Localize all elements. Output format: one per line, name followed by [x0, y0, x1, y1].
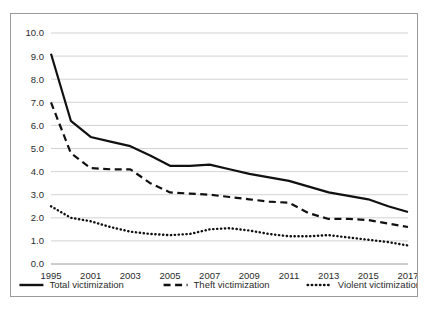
y-tick-label: 3.0: [31, 189, 44, 200]
y-tick-label: 6.0: [31, 120, 44, 131]
line-chart: 0.01.02.03.04.05.06.07.08.09.010.0 19952…: [11, 14, 417, 296]
y-tick-label: 10.0: [26, 27, 45, 38]
y-tick-label: 2.0: [31, 212, 44, 223]
legend-label: Violent victimization: [338, 279, 417, 290]
y-tick-label: 7.0: [31, 97, 44, 108]
x-tick-label: 2005: [159, 270, 180, 281]
series-line-dashed: [51, 102, 408, 227]
y-tick-label: 8.0: [31, 74, 44, 85]
y-tick-label: 1.0: [31, 235, 44, 246]
y-tick-label: 5.0: [31, 143, 44, 154]
y-tick-label: 9.0: [31, 51, 44, 62]
chart-legend: Total victimizationTheft victimizationVi…: [19, 279, 417, 290]
y-axis-tick-labels: 0.01.02.03.04.05.06.07.08.09.010.0: [26, 27, 45, 269]
y-tick-label: 4.0: [31, 166, 44, 177]
x-tick-label: 2011: [279, 270, 299, 281]
data-series-group: [51, 54, 408, 246]
legend-label: Theft victimization: [194, 279, 270, 290]
y-tick-label: 0.0: [31, 258, 44, 269]
chart-frame: 0.01.02.03.04.05.06.07.08.09.010.0 19952…: [10, 13, 418, 297]
gridlines: [51, 33, 408, 264]
series-line-solid: [51, 54, 408, 212]
x-tick-label: 2013: [318, 270, 339, 281]
legend-label: Total victimization: [49, 279, 123, 290]
series-line-dotted: [51, 206, 408, 245]
